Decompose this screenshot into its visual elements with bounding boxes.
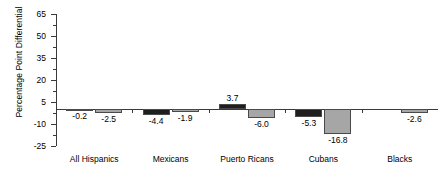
y-minor-tick bbox=[53, 47, 56, 48]
bar-dark bbox=[295, 109, 322, 117]
y-axis-title: Percentage Point Differential bbox=[14, 0, 24, 137]
y-tick-mark bbox=[51, 58, 56, 59]
y-tick-mark bbox=[51, 80, 56, 81]
bar-chart-figure: Percentage Point Differential 655035205-… bbox=[0, 0, 444, 170]
x-tick-mark bbox=[362, 109, 363, 113]
y-minor-tick bbox=[53, 113, 56, 114]
x-category-label: Mexicans bbox=[153, 154, 189, 164]
bar-dark bbox=[219, 104, 246, 109]
y-minor-tick bbox=[53, 25, 56, 26]
bar-light bbox=[172, 109, 199, 112]
bar-value-label: -1.9 bbox=[178, 113, 193, 123]
bar-value-label: -0.2 bbox=[72, 111, 87, 121]
bar-light bbox=[401, 109, 428, 113]
y-tick-label: -10 bbox=[34, 119, 46, 129]
bar-light bbox=[95, 109, 122, 113]
bar-value-label: -4.4 bbox=[149, 116, 164, 126]
y-tick-label: 50 bbox=[37, 31, 46, 41]
y-tick-label: 5 bbox=[41, 97, 46, 107]
y-tick-label: -25 bbox=[34, 141, 46, 151]
y-minor-tick bbox=[53, 135, 56, 136]
bar-dark bbox=[143, 109, 170, 115]
y-tick-mark bbox=[51, 36, 56, 37]
bar-value-label: -2.6 bbox=[407, 114, 422, 124]
bar-value-label: 3.7 bbox=[227, 93, 239, 103]
bar-value-label: -6.0 bbox=[254, 119, 269, 129]
y-tick-label: 20 bbox=[37, 75, 46, 85]
y-tick-mark bbox=[51, 14, 56, 15]
plot-area: 655035205-10-25 -0.2-2.5-4.4-1.93.7-6.0-… bbox=[56, 14, 438, 146]
bar-value-label: -5.3 bbox=[302, 118, 317, 128]
x-tick-mark bbox=[285, 109, 286, 113]
y-tick-label: 35 bbox=[37, 53, 46, 63]
y-tick-mark bbox=[51, 124, 56, 125]
y-axis-spine bbox=[56, 14, 57, 146]
bar-value-label: -16.8 bbox=[328, 135, 347, 145]
x-category-label: Blacks bbox=[387, 154, 412, 164]
x-category-label: Puerto Ricans bbox=[220, 154, 273, 164]
y-tick-mark bbox=[51, 146, 56, 147]
x-tick-mark bbox=[132, 109, 133, 113]
y-tick-mark bbox=[51, 102, 56, 103]
y-tick-label: 65 bbox=[37, 9, 46, 19]
bar-light bbox=[248, 109, 275, 118]
x-category-label: Cubans bbox=[309, 154, 338, 164]
y-minor-tick bbox=[53, 69, 56, 70]
y-minor-tick bbox=[53, 91, 56, 92]
x-category-label: All Hispanics bbox=[70, 154, 119, 164]
bar-value-label: -2.5 bbox=[101, 114, 116, 124]
bar-light bbox=[324, 109, 351, 134]
x-tick-mark bbox=[209, 109, 210, 113]
